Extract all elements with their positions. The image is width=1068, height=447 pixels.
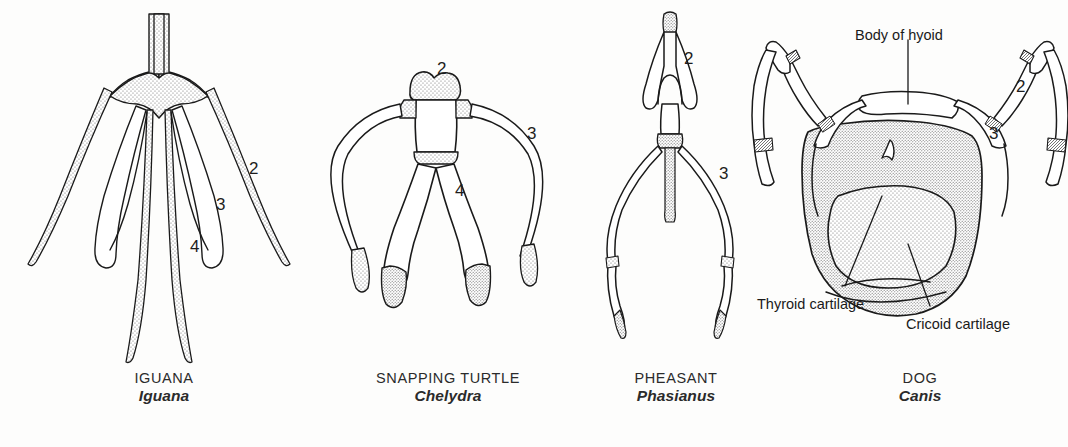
caption-pheasant: PHEASANT Phasianus	[576, 370, 776, 405]
caption-iguana: IGUANA Iguana	[64, 370, 264, 405]
iguana-number-3: 3	[216, 196, 225, 213]
pheasant-hyoid-drawing	[606, 12, 734, 338]
caption-common-name: DOG	[820, 370, 1020, 387]
caption-genus-name: Phasianus	[576, 387, 776, 405]
comparative-hyoid-figure: 2 3 4 2 3 4 2 3 2 3 Body of hyoid Thyroi…	[0, 0, 1068, 447]
snapping-turtle-number-2: 2	[437, 60, 446, 77]
snapping-turtle-hyoid-drawing	[331, 72, 543, 308]
pheasant-number-3: 3	[719, 165, 728, 182]
dog-number-2: 2	[1016, 78, 1025, 95]
caption-dog: DOG Canis	[820, 370, 1020, 405]
caption-common-name: IGUANA	[64, 370, 264, 387]
caption-genus-name: Chelydra	[348, 387, 548, 405]
iguana-number-4: 4	[190, 238, 199, 255]
annotation-thyroid-cartilage: Thyroid cartilage	[757, 297, 864, 312]
snapping-turtle-number-4: 4	[455, 182, 464, 199]
caption-genus-name: Canis	[820, 387, 1020, 405]
snapping-turtle-number-3: 3	[527, 125, 536, 142]
iguana-hyoid-drawing	[28, 14, 290, 363]
pheasant-number-2: 2	[684, 50, 693, 67]
caption-common-name: SNAPPING TURTLE	[348, 370, 548, 387]
caption-snapping-turtle: SNAPPING TURTLE Chelydra	[348, 370, 548, 405]
annotation-body-of-hyoid: Body of hyoid	[855, 28, 943, 43]
caption-common-name: PHEASANT	[576, 370, 776, 387]
iguana-number-2: 2	[249, 160, 258, 177]
dog-number-3: 3	[989, 125, 998, 142]
annotation-cricoid-cartilage: Cricoid cartilage	[906, 317, 1010, 332]
caption-genus-name: Iguana	[64, 387, 264, 405]
